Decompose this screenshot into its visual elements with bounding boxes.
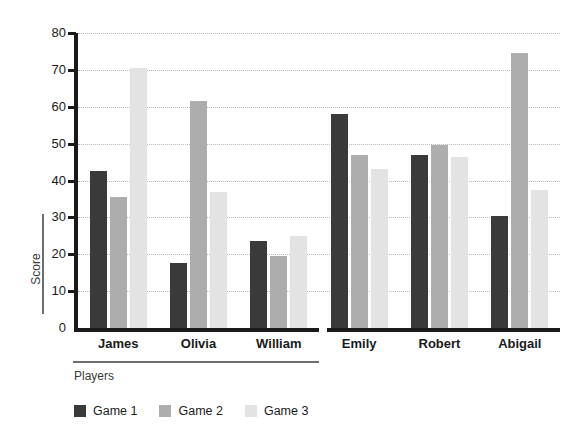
- bar: [351, 155, 368, 328]
- x-tick-label: William: [239, 335, 319, 355]
- legend-item[interactable]: Game 3: [245, 405, 308, 418]
- legend-label: Game 1: [93, 405, 137, 418]
- x-axis-segment: [74, 328, 319, 332]
- bar: [190, 101, 207, 328]
- bar: [290, 236, 307, 328]
- y-tick-mark: [68, 290, 76, 293]
- legend-label: Game 2: [178, 405, 222, 418]
- bar: [491, 216, 508, 328]
- bar-group: [319, 33, 399, 328]
- x-axis-title-rule: [73, 361, 319, 363]
- x-tick-label: James: [78, 335, 158, 355]
- bar: [270, 256, 287, 328]
- x-tick-label: Abigail: [480, 335, 560, 355]
- y-tick-label: 30: [40, 210, 66, 223]
- y-tick-label: 50: [40, 137, 66, 150]
- y-tick-label: 10: [40, 284, 66, 297]
- y-tick-mark: [68, 180, 76, 183]
- bar-group: [239, 33, 319, 328]
- y-tick-mark: [68, 106, 76, 109]
- bar: [250, 241, 267, 328]
- bar-group: [78, 33, 158, 328]
- legend-label: Game 3: [264, 405, 308, 418]
- x-tick-label: Robert: [399, 335, 479, 355]
- chart-legend: Game 1Game 2Game 3: [74, 402, 330, 420]
- bar-groups: [78, 33, 560, 328]
- y-axis-tick-labels: 01020304050607080: [36, 0, 66, 438]
- bar: [110, 197, 127, 328]
- legend-item[interactable]: Game 2: [159, 405, 222, 418]
- x-axis-title: Players: [74, 369, 114, 383]
- bar: [431, 145, 448, 328]
- bar: [210, 192, 227, 328]
- y-tick-label: 40: [40, 174, 66, 187]
- x-tick-label: Olivia: [158, 335, 238, 355]
- legend-swatch: [159, 405, 171, 417]
- legend-item[interactable]: Game 1: [74, 405, 137, 418]
- y-tick-mark: [68, 143, 76, 146]
- y-tick-mark: [68, 253, 76, 256]
- bar: [371, 169, 388, 328]
- x-axis-segment: [327, 328, 560, 332]
- y-tick-label: 80: [40, 26, 66, 39]
- bar: [531, 190, 548, 328]
- legend-swatch: [74, 405, 86, 417]
- x-axis-tick-labels: JamesOliviaWilliamEmilyRobertAbigail: [78, 335, 560, 355]
- x-tick-label: Emily: [319, 335, 399, 355]
- bar: [170, 263, 187, 328]
- bar: [130, 68, 147, 328]
- bar: [451, 157, 468, 328]
- legend-swatch: [245, 405, 257, 417]
- bar-chart: Score 01020304050607080 JamesOliviaWilli…: [0, 0, 582, 438]
- y-tick-mark: [68, 69, 76, 72]
- y-tick-label: 60: [40, 100, 66, 113]
- bar-group: [480, 33, 560, 328]
- y-tick-label: 20: [40, 247, 66, 260]
- y-tick-label: 0: [40, 321, 66, 334]
- bar-group: [158, 33, 238, 328]
- bar-group: [399, 33, 479, 328]
- bar: [90, 171, 107, 328]
- y-tick-mark: [68, 216, 76, 219]
- bar: [411, 155, 428, 328]
- y-tick-label: 70: [40, 63, 66, 76]
- y-tick-mark: [68, 32, 76, 35]
- bar: [331, 114, 348, 328]
- bar: [511, 53, 528, 328]
